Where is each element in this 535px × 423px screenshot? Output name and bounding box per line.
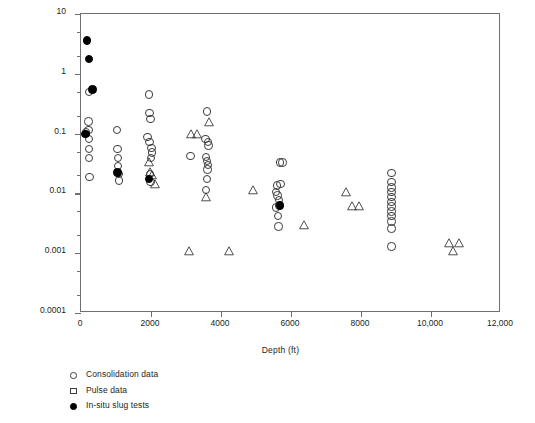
y-axis-tick-label-text: 10 (57, 6, 66, 16)
x-axis-title-text: Depth (ft) (236, 345, 299, 355)
x-axis-tick (291, 311, 292, 317)
legend-item-label: Pulse data (86, 383, 127, 399)
y-axis-tick (75, 313, 81, 314)
x-axis-tick-label: 8000 (351, 318, 370, 328)
data-point-consolidation (113, 126, 121, 134)
data-point-consolidation (203, 165, 211, 173)
square-open-icon-glyph (70, 388, 77, 395)
y-axis-minor-tick (77, 32, 81, 33)
y-axis-tick-label-text: 0.1 (54, 126, 66, 136)
data-point-consolidation (85, 173, 93, 181)
data-point-consolidation (203, 175, 211, 183)
y-axis-minor-tick (77, 175, 81, 176)
data-point-consolidation (146, 115, 154, 123)
y-axis-minor-tick (77, 271, 81, 272)
data-point-slug-test (276, 201, 284, 209)
x-axis-tick (221, 311, 222, 317)
legend-item: In-situ slug tests (68, 398, 158, 414)
y-axis-minor-tick (77, 56, 81, 57)
data-point-slug-test (85, 55, 93, 63)
x-axis-tick-label: 12,000 (487, 318, 513, 328)
data-point-consolidation (113, 145, 121, 153)
data-point-consolidation (274, 212, 282, 220)
y-axis-tick-label-text: 0.01 (49, 185, 66, 195)
y-axis-tick (75, 74, 81, 75)
data-point-consolidation (84, 117, 92, 125)
data-point-consolidation (114, 154, 122, 162)
y-axis-tick (75, 193, 81, 194)
data-point-consolidation (85, 145, 93, 153)
data-point-slug-test (113, 168, 121, 176)
data-point-slug-test (88, 85, 96, 93)
y-axis-tick-label-text: 0.0001 (40, 305, 66, 315)
x-axis-tick (151, 311, 152, 317)
legend-item: Pulse data (68, 383, 158, 399)
data-point-consolidation (387, 242, 395, 250)
data-point-consolidation (145, 90, 153, 98)
data-point-slug-test (81, 130, 89, 138)
x-axis-tick-label: 10,000 (417, 318, 443, 328)
chart-container: Permeability (md) 0.00010.0010.010.1110 … (0, 0, 535, 423)
y-axis-tick (75, 134, 81, 135)
x-axis-title: Depth (ft) (0, 345, 535, 355)
square-open-icon (68, 384, 80, 396)
data-point-consolidation (204, 141, 212, 149)
x-axis-tick (431, 311, 432, 317)
x-axis-tick-label: 6000 (281, 318, 300, 328)
y-axis-tick-label-text: 0.001 (45, 245, 66, 255)
circle-filled-icon-glyph (70, 403, 77, 410)
circle-open-icon-glyph (70, 372, 77, 379)
data-point-consolidation (274, 222, 282, 230)
data-point-consolidation (278, 158, 286, 166)
circle-filled-icon (68, 400, 80, 412)
data-point-consolidation (276, 180, 284, 188)
y-axis-tick (75, 253, 81, 254)
data-point-consolidation (115, 176, 123, 184)
plot-area (80, 13, 500, 312)
legend-item-label: In-situ slug tests (86, 398, 149, 414)
y-axis-tick-label-text: 1 (61, 66, 66, 76)
x-axis-tick-label: 2000 (141, 318, 160, 328)
y-axis-minor-tick (77, 211, 81, 212)
x-axis-tick (361, 311, 362, 317)
data-point-consolidation (387, 169, 395, 177)
x-axis-tick-label: 4000 (211, 318, 230, 328)
data-point-consolidation (387, 224, 395, 232)
x-axis-tick-label: 0 (78, 318, 83, 328)
chart-legend: Consolidation dataPulse dataIn-situ slug… (68, 367, 158, 414)
legend-item: Consolidation data (68, 367, 158, 383)
data-point-consolidation (186, 152, 194, 160)
data-point-consolidation (85, 154, 93, 162)
y-axis-minor-tick (77, 235, 81, 236)
data-point-slug-test (83, 36, 91, 44)
y-axis-minor-tick (77, 92, 81, 93)
data-point-consolidation (203, 107, 211, 115)
y-axis-minor-tick (77, 116, 81, 117)
legend-item-label: Consolidation data (86, 367, 158, 383)
circle-open-icon (68, 369, 80, 381)
y-axis-minor-tick (77, 295, 81, 296)
y-axis-minor-tick (77, 152, 81, 153)
y-axis-tick (75, 14, 81, 15)
